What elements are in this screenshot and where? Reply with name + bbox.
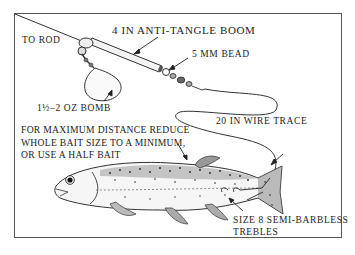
bomb-weight-icon: [85, 68, 121, 101]
note-line-2: WHOLE BAIT SIZE TO A MINIMUM,: [21, 137, 190, 150]
label-boom: 4 IN ANTI-TANGLE BOOM: [112, 25, 255, 36]
label-to-rod: TO ROD: [22, 36, 61, 46]
swivel-icon: [170, 74, 205, 90]
label-bead: 5 MM BEAD: [192, 50, 250, 60]
label-bomb: 1½–2 OZ BOMB: [37, 104, 111, 114]
bead-icon: [163, 69, 170, 76]
label-hooks-line2: TREBLES: [233, 228, 278, 238]
trout-bait-icon: [55, 156, 283, 224]
note-line-3: OR USE A HALF BAIT: [21, 149, 190, 162]
bait-note: FOR MAXIMUM DISTANCE REDUCE WHOLE BAIT S…: [21, 124, 190, 162]
label-wire-trace: 20 IN WIRE TRACE: [216, 117, 307, 127]
label-hooks-line1: SIZE 8 SEMI-BARBLESS: [233, 216, 348, 226]
note-line-1: FOR MAXIMUM DISTANCE REDUCE: [21, 124, 190, 137]
boom-icon: [78, 38, 164, 73]
